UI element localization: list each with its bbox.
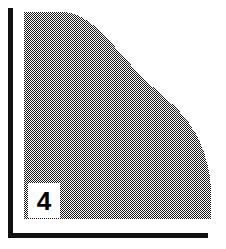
figure-number-box: 4 xyxy=(28,183,60,218)
figure-number-label: 4 xyxy=(37,188,51,214)
figure-container: 4 xyxy=(0,0,226,249)
